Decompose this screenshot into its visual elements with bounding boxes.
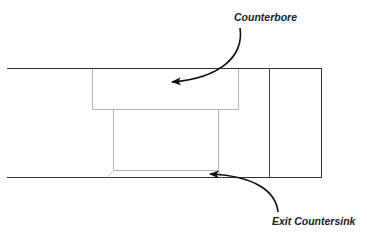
counterbore-pocket (93, 69, 239, 110)
exit-countersink-chamfer (107, 171, 221, 178)
exit-countersink-label: Exit Countersink (272, 215, 355, 227)
cross-section-diagram (0, 0, 367, 238)
workpiece-outline (7, 68, 322, 178)
counterbore-leader-arrow (172, 28, 240, 82)
counterbore-label: Counterbore (234, 11, 297, 23)
through-hole (114, 110, 219, 171)
exit-countersink-leader-arrow (210, 174, 278, 212)
